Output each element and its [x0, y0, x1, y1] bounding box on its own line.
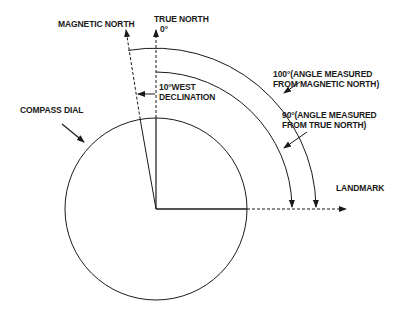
angle-true-label-line2: FROM TRUE NORTH): [282, 120, 366, 130]
magnetic-north-radius: [140, 119, 156, 209]
true-north-label: TRUE NORTH: [154, 14, 209, 24]
angle-magnetic-label-line2: FROM MAGNETIC NORTH): [273, 79, 379, 89]
angle-true-pointer: [284, 132, 307, 148]
magnetic-north-label: MAGNETIC NORTH: [58, 19, 135, 29]
declination-label-line1: 10°WEST: [159, 82, 196, 92]
declination-label-line2: DECLINATION: [159, 92, 215, 102]
true-north-degree-label: 0°: [160, 24, 168, 34]
angle-true-label-line1: 90°(ANGLE MEASURED: [282, 110, 377, 120]
landmark-label: LANDMARK: [336, 183, 384, 193]
angle-magnetic-label-line1: 100°(ANGLE MEASURED: [273, 69, 372, 79]
diagram-canvas: [0, 0, 403, 321]
compass-dial-label: COMPASS DIAL: [20, 105, 83, 115]
magnetic-north-dashed-line: [126, 30, 140, 119]
compass-dial-pointer: [62, 124, 84, 142]
